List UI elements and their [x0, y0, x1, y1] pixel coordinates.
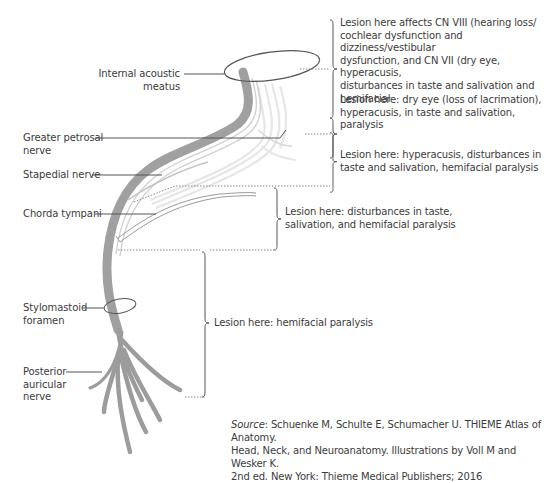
- label-greater-petrosal-nerve: Greater petrosal nerve: [23, 132, 103, 157]
- lesion-dotted-lines: [118, 69, 330, 397]
- label-posterior-auricular-nerve: Posterior auricular nerve: [23, 366, 66, 404]
- faint-fibers: [150, 84, 296, 208]
- lesion-text-stylomastoid-foramen: Lesion here: hemifacial paralysis: [214, 317, 373, 330]
- lesion-text-above-stapedial: Lesion here: hyperacusis, disturbances i…: [340, 149, 541, 174]
- lesion-text-above-chorda-tympani: Lesion here: disturbances in taste, sali…: [285, 206, 456, 231]
- lesion-text-internal-acoustic-meatus: Lesion here affects CN VIII (hearing los…: [340, 17, 546, 105]
- label-chorda-tympani: Chorda tympani: [23, 208, 102, 221]
- chorda-tympani-path: [116, 193, 256, 242]
- source-line-2: Head, Neck, and Neuroanatomy. Illustrati…: [231, 444, 546, 470]
- source-line-3: 2nd ed. New York: Thieme Medical Publish…: [231, 470, 546, 483]
- facial-nerve-branches: [104, 330, 180, 452]
- source-line-1: : Schuenke M, Schulte E, Schumacher U. T…: [231, 419, 541, 443]
- label-stapedial-nerve: Stapedial nerve: [23, 169, 100, 182]
- source-prefix: Source: [231, 419, 265, 430]
- source-citation: Source: Schuenke M, Schulte E, Schumache…: [231, 418, 546, 483]
- label-stylomastoid-foramen: Stylomastoid foramen: [23, 302, 87, 327]
- internal-acoustic-meatus-ellipse: [223, 45, 322, 86]
- facial-nerve-trunk: [107, 72, 248, 330]
- lesion-text-geniculate: Lesion here: dry eye (loss of lacrimatio…: [340, 94, 546, 132]
- label-internal-acoustic-meatus: Internal acoustic meatus: [96, 68, 180, 93]
